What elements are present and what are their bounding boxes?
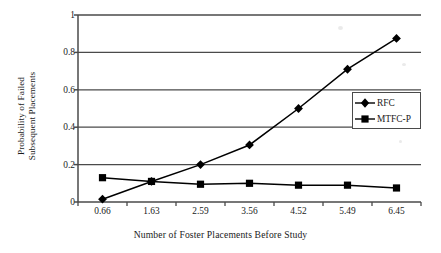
legend-item-rfc: RFC <box>353 95 420 111</box>
legend-key-square-icon <box>354 112 376 126</box>
data-point-marker-square <box>295 182 302 189</box>
data-point-marker-square <box>344 182 351 189</box>
data-point-marker-diamond <box>196 160 205 169</box>
data-point-marker-square <box>246 180 253 187</box>
data-point-marker-diamond <box>392 34 401 43</box>
data-point-marker-square <box>148 178 155 185</box>
legend-item-mtfc-p: MTFC-P <box>353 111 420 127</box>
legend-label-rfc: RFC <box>376 98 395 108</box>
data-point-marker-square <box>393 184 400 191</box>
chart-legend: RFC MTFC-P <box>352 92 421 129</box>
data-point-marker-square <box>99 174 106 181</box>
legend-label-mtfc-p: MTFC-P <box>376 114 411 124</box>
x-axis-title: Number of Foster Placements Before Study <box>0 229 441 240</box>
line-chart: Probability of Failed Subsequent Placeme… <box>0 0 441 253</box>
data-point-marker-square <box>197 181 204 188</box>
legend-key-diamond-icon <box>354 96 376 110</box>
